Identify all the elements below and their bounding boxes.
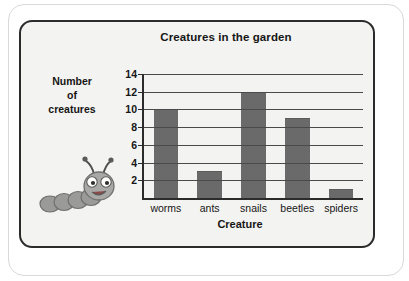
y-axis-tick-label: 14 [125, 68, 137, 80]
x-axis-title: Creature [117, 218, 363, 230]
plot-grid [144, 74, 363, 198]
x-axis-line [142, 198, 363, 200]
y-axis-tick-labels: 2468101214 [117, 74, 139, 198]
y-axis-tick-label: 8 [131, 121, 137, 133]
x-axis-category-label: ants [188, 202, 232, 214]
gridline [144, 74, 363, 75]
gridline [144, 92, 363, 93]
y-axis-tick-mark [138, 163, 144, 164]
y-axis-title-line-1: Number [31, 74, 113, 88]
x-axis-category-label: spiders [319, 202, 363, 214]
y-axis-tick-mark [138, 109, 144, 110]
gridline [144, 163, 363, 164]
bar [197, 171, 222, 198]
bar [329, 189, 354, 198]
y-axis-title-line-2: of [31, 88, 113, 102]
y-axis-tick-mark [138, 145, 144, 146]
gridline [144, 180, 363, 181]
y-axis-tick-label: 2 [131, 174, 137, 186]
chart-title: Creatures in the garden [21, 31, 373, 43]
y-axis-tick-label: 4 [131, 157, 137, 169]
gridline [144, 109, 363, 110]
caterpillar-icon [39, 155, 117, 217]
y-axis-tick-label: 6 [131, 139, 137, 151]
y-axis-tick-label: 12 [125, 86, 137, 98]
plot-area: 2468101214 wormsantssnailsbeetlesspiders [117, 74, 363, 214]
x-axis-category-label: beetles [275, 202, 319, 214]
x-axis-category-label: snails [232, 202, 276, 214]
y-axis-tick-mark [138, 180, 144, 181]
x-axis-category-labels: wormsantssnailsbeetlesspiders [144, 202, 363, 214]
y-axis-title: Number of creatures [31, 74, 113, 116]
y-axis-tick-mark [138, 74, 144, 75]
y-axis-title-line-3: creatures [31, 102, 113, 116]
y-axis-tick-label: 10 [125, 103, 137, 115]
bar [154, 109, 179, 198]
chart-card: Creatures in the garden Number of creatu… [19, 20, 375, 248]
gridline [144, 127, 363, 128]
x-axis-category-label: worms [144, 202, 188, 214]
bar [285, 118, 310, 198]
y-axis-tick-mark [138, 92, 144, 93]
gridline [144, 145, 363, 146]
y-axis-tick-mark [138, 127, 144, 128]
